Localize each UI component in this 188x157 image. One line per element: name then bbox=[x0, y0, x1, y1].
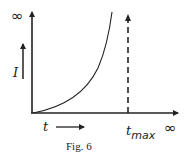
figure-caption: Fig. 6 bbox=[66, 141, 92, 152]
tmax-subscript: max bbox=[131, 129, 155, 142]
asymptote-arrow-icon bbox=[125, 14, 131, 21]
x-axis-infinity-label: ∞ bbox=[164, 121, 177, 136]
diagram-graphics bbox=[0, 0, 188, 157]
y-axis-infinity-label: ∞ bbox=[11, 9, 24, 24]
tmax-label: tmax bbox=[126, 122, 155, 138]
x-axis-label: t bbox=[43, 120, 48, 133]
y-axis-label: I bbox=[13, 66, 18, 79]
curve-I-vs-t bbox=[33, 12, 112, 113]
figure: ∞ I t tmax ∞ Fig. 6 bbox=[0, 0, 188, 157]
